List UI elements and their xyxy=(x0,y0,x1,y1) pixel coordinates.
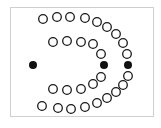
inner-arc-circle xyxy=(49,85,58,94)
outer-arc-circle xyxy=(53,13,62,22)
dot-diagram xyxy=(0,0,161,128)
outer-arc-circle xyxy=(54,104,63,113)
outer-arc-circle xyxy=(119,81,128,90)
outer-arc-circle xyxy=(38,102,47,111)
outer-arc-circle xyxy=(81,103,90,112)
inner-arc-circle xyxy=(49,38,58,47)
outer-arc-circle xyxy=(103,94,112,103)
outer-arc-circle xyxy=(67,105,76,114)
inner-arc-circle xyxy=(89,40,98,49)
inner-arc-circle xyxy=(97,73,106,82)
outer-arc-circle xyxy=(39,15,48,24)
solid-dot xyxy=(124,61,132,69)
outer-arc-circle xyxy=(93,18,102,27)
inner-arc-circle xyxy=(77,38,86,47)
outer-arc-circle xyxy=(112,88,121,97)
outer-arc-circle xyxy=(112,30,121,39)
inner-arc-circle xyxy=(63,37,72,46)
inner-arc-circle xyxy=(89,80,98,89)
inner-arc-circle xyxy=(63,86,72,95)
outer-arc-circle xyxy=(124,72,133,81)
solid-dot xyxy=(100,61,108,69)
inner-arc-circle xyxy=(77,85,86,94)
outer-arc-circle xyxy=(93,99,102,108)
outer-arc-circle xyxy=(66,13,75,22)
outer-arc-circle xyxy=(103,23,112,32)
outer-arc-circle xyxy=(119,39,128,48)
solid-dot xyxy=(29,61,37,69)
outer-arc-circle xyxy=(81,14,90,23)
inner-arc-circle xyxy=(97,50,106,59)
outer-arc-circle xyxy=(123,50,132,59)
